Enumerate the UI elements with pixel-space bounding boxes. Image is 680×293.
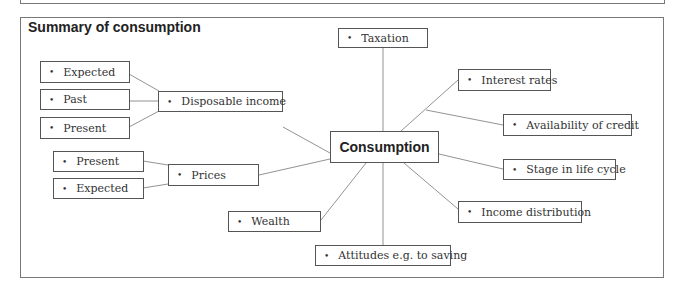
wealth-node: •Wealth [228, 211, 321, 232]
stage-in-life-cycle-node: •Stage in life cycle [503, 159, 616, 180]
di-expected-node: •Expected [40, 61, 130, 83]
disposable-income-node: •Disposable income [158, 91, 283, 112]
bullet-icon: • [467, 207, 472, 217]
di-past-node: •Past [40, 89, 130, 110]
attitudes-node: •Attitudes e.g. to saving [315, 245, 451, 266]
income-distribution-node: •Income distribution [458, 201, 582, 223]
bullet-icon: • [49, 95, 54, 105]
bullet-icon: • [512, 165, 517, 175]
prices-expected-node: •Expected [53, 178, 144, 199]
bullet-icon: • [467, 75, 472, 85]
bullet-icon: • [177, 170, 182, 180]
prices-node: •Prices [168, 164, 259, 186]
bullet-icon: • [49, 123, 54, 133]
bullet-icon: • [62, 157, 67, 167]
prices-present-node: •Present [53, 151, 144, 172]
bullet-icon: • [324, 251, 329, 261]
bullet-icon: • [237, 217, 242, 227]
taxation-node: •Taxation [338, 28, 428, 48]
bullet-icon: • [49, 67, 54, 77]
bullet-icon: • [347, 33, 352, 43]
bullet-icon: • [512, 120, 517, 130]
bullet-icon: • [167, 97, 172, 107]
availability-of-credit-node: •Availability of credit [503, 114, 632, 136]
interest-rates-node: •Interest rates [458, 69, 551, 91]
bullet-icon: • [62, 184, 67, 194]
di-present-node: •Present [40, 117, 130, 139]
consumption-node: Consumption [330, 131, 439, 163]
